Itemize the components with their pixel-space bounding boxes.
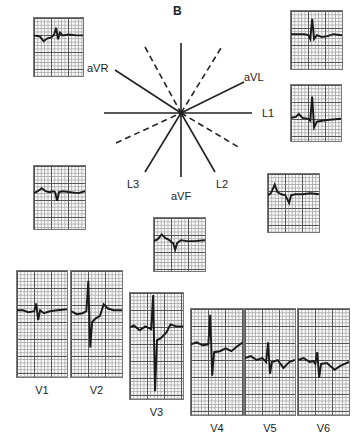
ecg-trace (191, 309, 243, 415)
ecg-strip-avf (153, 217, 206, 272)
ecg-strip-avr (33, 17, 84, 77)
axis-avr (115, 70, 181, 113)
ecg-strip-v4 (190, 308, 244, 416)
label-avr: aVR (87, 62, 108, 74)
panel-label: B (173, 4, 182, 18)
axis-center (179, 111, 184, 116)
dashed-axis-upper-left (145, 47, 181, 113)
label-avf: aVF (171, 190, 191, 202)
ecg-trace (17, 271, 67, 377)
ecg-strip-v6 (297, 308, 350, 416)
ecg-strip-l3 (33, 165, 86, 230)
axis-l2 (181, 113, 215, 172)
label-v4: V4 (190, 422, 244, 434)
ecg-trace (71, 271, 122, 377)
ecg-strip-v3 (129, 292, 184, 400)
ecg-trace (291, 11, 342, 69)
dashed-axis-lower-right (181, 113, 240, 148)
label-v5: V5 (244, 422, 296, 434)
label-v3: V3 (129, 406, 184, 418)
label-l1: L1 (262, 107, 274, 119)
ecg-trace (245, 309, 295, 415)
label-avl: aVL (244, 71, 264, 83)
ecg-strip-v2 (70, 270, 123, 378)
ecg-trace (298, 309, 349, 415)
ecg-trace (154, 218, 205, 271)
label-l3: L3 (127, 178, 139, 190)
label-v6: V6 (297, 422, 350, 434)
ecg-strip-l1 (290, 84, 342, 142)
label-l2: L2 (216, 178, 228, 190)
ecg-strip-avl (290, 10, 343, 70)
ecg-trace (268, 174, 319, 232)
ecg-trace (34, 166, 85, 229)
ecg-strip-v5 (244, 308, 296, 416)
axis-avl (181, 82, 244, 113)
label-v1: V1 (16, 384, 68, 396)
ecg-strip-l2 (267, 173, 320, 233)
ecg-trace (291, 85, 341, 141)
ecg-trace (34, 18, 83, 76)
ecg-strip-v1 (16, 270, 68, 378)
label-v2: V2 (70, 384, 123, 396)
ecg-trace (130, 293, 183, 399)
